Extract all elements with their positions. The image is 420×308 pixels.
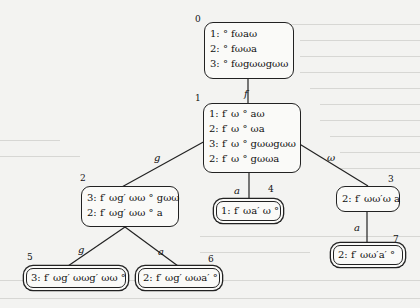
node-id-3: 3 (388, 174, 394, 184)
node-line: 1: ° fωaω (210, 26, 288, 41)
edge-label-2-5: g (78, 244, 84, 255)
node-line: 2: f′ ω ° ωa (209, 121, 295, 136)
node-id-1: 1 (195, 93, 201, 103)
edge-label-1-3: ω (327, 152, 335, 163)
node-id-5: 5 (27, 252, 33, 262)
node-line: 3: f′ ωg′ ωωg′ ωω ° (31, 270, 121, 285)
edge-label-1-2: g (154, 152, 160, 163)
node-id-4: 4 (268, 184, 274, 194)
node-id-0: 0 (195, 14, 201, 24)
tree-node-2: 3: f′ ωg′ ωω ° gωω 2: f′ ωg′ ωω ° a (81, 186, 179, 227)
node-line: 3: ° fωgωωgωω (210, 56, 288, 71)
tree-node-0: 1: ° fωaω 2: ° fωωa 3: ° fωgωωgωω (204, 22, 294, 79)
node-line: 2: f′ ω ° gωωa (209, 151, 295, 166)
node-id-7: 7 (393, 234, 399, 244)
tree-node-4-final: 1: f′ ωa′ ω ° (216, 201, 281, 221)
node-line: 2: ° fωωa (210, 41, 288, 56)
node-line: 1: f′ ωa′ ω ° (221, 203, 276, 218)
node-line: 2: f′ ωg′ ωω ° a (87, 205, 173, 220)
tree-node-3: 2: f′ ωω′ω a (336, 186, 400, 212)
edge-label-3-7: a (354, 222, 360, 233)
edge-label-2-6: a (158, 246, 164, 257)
edge-label-1-4: a (234, 185, 240, 196)
node-line: 1: f′ ω ° aω (209, 106, 295, 121)
node-line: 3: f′ ω ° gωωgωω (209, 136, 295, 151)
tree-node-6-final: 2: f′ ωg′ ωωa′ ° (138, 268, 220, 288)
edge-label-0-1: f (244, 88, 248, 99)
node-id-2: 2 (80, 173, 86, 183)
node-line: 3: f′ ωg′ ωω ° gωω (87, 190, 173, 205)
node-id-6: 6 (208, 254, 214, 264)
tree-node-7-final: 2: f′ ωω′a′ ° (333, 245, 403, 265)
node-line: 2: f′ ωω′ω a (342, 191, 394, 206)
node-line: 2: f′ ωω′a′ ° (338, 247, 398, 262)
tree-node-1: 1: f′ ω ° aω 2: f′ ω ° ωa 3: f′ ω ° gωωg… (203, 103, 301, 173)
tree-node-5-final: 3: f′ ωg′ ωωg′ ωω ° (26, 268, 126, 288)
node-line: 2: f′ ωg′ ωωa′ ° (143, 270, 215, 285)
